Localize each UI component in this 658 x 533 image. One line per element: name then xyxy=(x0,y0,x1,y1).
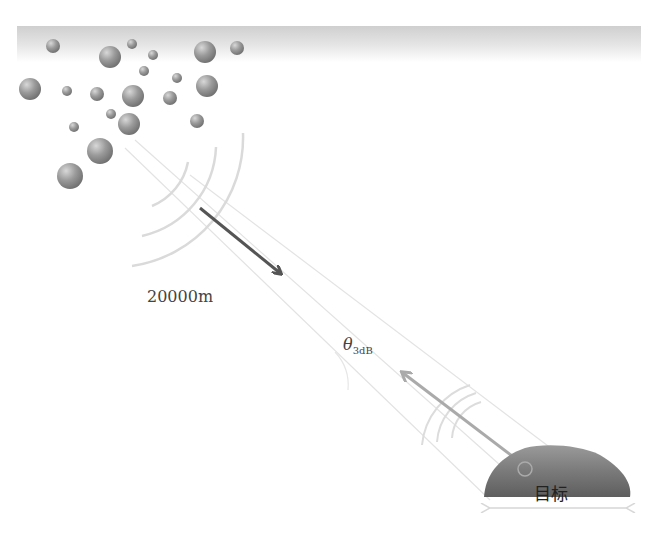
radar-diagram: 20000m θ3dB 目标 xyxy=(0,0,658,533)
transmit-arrow xyxy=(200,208,280,273)
diagram-canvas xyxy=(0,0,658,533)
beamwidth-label: θ3dB xyxy=(343,335,373,356)
range-label: 20000m xyxy=(147,287,213,306)
theta-symbol: θ xyxy=(343,335,353,354)
beam-cone xyxy=(125,140,560,500)
echo-arrow xyxy=(403,373,520,462)
theta-subscript: 3dB xyxy=(353,345,373,356)
target-label: 目标 xyxy=(534,480,568,505)
